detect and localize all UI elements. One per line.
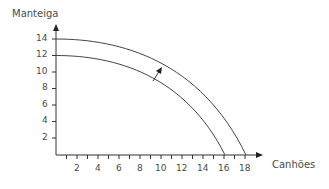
x-tick-label: 2 [74, 163, 80, 173]
inner-frontier-curve [56, 56, 225, 156]
x-tick-label: 10 [155, 163, 166, 173]
y-tick-label: 14 [36, 33, 47, 43]
x-ticks [67, 155, 246, 159]
y-axis-label: Manteiga [12, 8, 58, 19]
x-tick-label: 16 [218, 163, 229, 173]
y-tick-label: 12 [36, 49, 47, 59]
shift-arrow-head-icon [156, 67, 162, 74]
y-ticks [52, 39, 56, 138]
x-tick-label: 18 [239, 163, 250, 173]
x-axis-label: Canhões [272, 159, 315, 170]
y-tick-label: 6 [42, 99, 48, 109]
x-tick-label: 14 [197, 163, 208, 173]
outer-frontier-curve [56, 39, 246, 155]
y-tick-label: 8 [42, 82, 48, 92]
x-tick-label: 8 [137, 163, 143, 173]
x-tick-label: 6 [116, 163, 122, 173]
x-axis-arrow-icon [256, 152, 263, 158]
x-tick-label: 12 [176, 163, 187, 173]
y-axis-arrow-icon [53, 24, 59, 31]
y-tick-label: 10 [36, 66, 47, 76]
y-tick-label: 4 [42, 115, 48, 125]
x-tick-label: 4 [95, 163, 101, 173]
y-tick-label: 2 [42, 132, 48, 142]
